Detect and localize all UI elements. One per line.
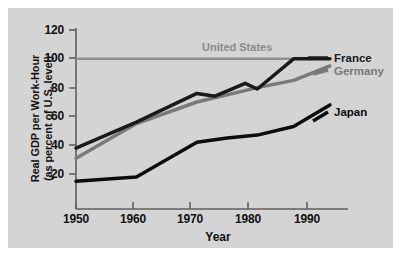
x-axis-title: Year bbox=[108, 230, 328, 244]
annotation-united-states: United States bbox=[202, 41, 272, 53]
x-tick-label-1970: 1970 bbox=[162, 212, 218, 226]
y-tick-label-120: 120 bbox=[28, 23, 64, 37]
series-label-japan: Japan bbox=[334, 106, 367, 118]
x-tick-label-1960: 1960 bbox=[105, 212, 161, 226]
series-label-germany: Germany bbox=[334, 65, 384, 77]
series-line-germany bbox=[76, 66, 330, 158]
y-axis-title-line1: Real GDP per Work-Hour bbox=[29, 39, 42, 199]
y-axis-title-line2: (as percent of U.S. level) bbox=[41, 39, 54, 199]
chart-figure: 120 100 80 60 40 20 1950 1960 1970 1980 … bbox=[8, 8, 393, 248]
x-axis-ticks bbox=[76, 202, 307, 209]
y-axis-ticks bbox=[69, 30, 76, 174]
x-tick-label-1980: 1980 bbox=[220, 212, 276, 226]
series-label-france: France bbox=[334, 52, 372, 64]
x-tick-label-1990: 1990 bbox=[279, 212, 335, 226]
x-tick-label-1950: 1950 bbox=[48, 212, 104, 226]
series-line-japan bbox=[76, 105, 330, 181]
y-axis-title: Real GDP per Work-Hour (as percent of U.… bbox=[29, 39, 54, 199]
